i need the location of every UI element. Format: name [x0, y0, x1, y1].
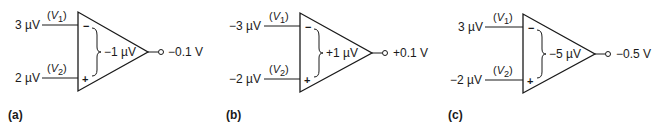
differential-voltage: −1 µV [104, 45, 136, 59]
inverting-sign: − [83, 19, 89, 33]
panel-a: 3 µV 2 µV (V1) (V2) − + −1 µV −0.1 V (a) [0, 0, 220, 129]
v2-input-value: −2 µV [221, 72, 261, 86]
v2-name: (V2) [47, 61, 67, 79]
panel-b: −3 µV −2 µV (V1) (V2) − + +1 µV +0.1 V (… [220, 0, 440, 129]
inverting-sign: − [528, 21, 534, 35]
differential-voltage: −5 µV [549, 47, 581, 61]
output-voltage: −0.1 V [168, 45, 203, 59]
panel-c: 3 µV −2 µV (V1) (V2) − + −5 µV −0.5 V (c… [440, 0, 660, 129]
v1-input-value: 3 µV [0, 18, 40, 32]
panel-label: (c) [448, 108, 463, 122]
v1-name: (V1) [269, 9, 289, 27]
v2-name: (V2) [493, 63, 513, 81]
noninverting-sign: + [527, 74, 533, 88]
v1-input-value: 3 µV [443, 20, 483, 34]
v1-name: (V1) [47, 8, 67, 26]
output-voltage: +0.1 V [393, 46, 428, 60]
v2-input-value: 2 µV [0, 71, 40, 85]
noninverting-sign: + [304, 73, 310, 87]
v1-name: (V1) [493, 10, 513, 28]
v2-input-value: −2 µV [442, 73, 482, 87]
v1-input-value: −3 µV [221, 19, 261, 33]
differential-voltage: +1 µV [326, 46, 358, 60]
noninverting-sign: + [82, 72, 88, 86]
output-voltage: −0.5 V [616, 47, 651, 61]
inverting-sign: − [305, 20, 311, 34]
panel-label: (a) [8, 108, 23, 122]
v2-name: (V2) [269, 62, 289, 80]
panel-label: (b) [226, 108, 241, 122]
